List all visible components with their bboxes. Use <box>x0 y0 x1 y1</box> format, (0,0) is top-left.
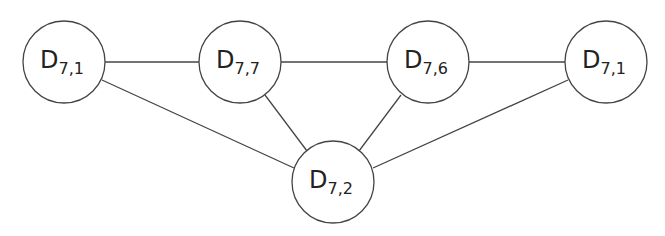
graph-canvas <box>0 0 665 236</box>
node-label-d71-right: D7,1 <box>582 46 626 78</box>
node-label-d77: D7,7 <box>216 46 260 78</box>
node-label-d71-left: D7,1 <box>40 46 84 78</box>
edge-n3-n5 <box>359 95 401 151</box>
node-label-d72: D7,2 <box>309 166 353 198</box>
node-label-d76: D7,6 <box>404 46 448 78</box>
edge-n2-n5 <box>265 95 307 151</box>
